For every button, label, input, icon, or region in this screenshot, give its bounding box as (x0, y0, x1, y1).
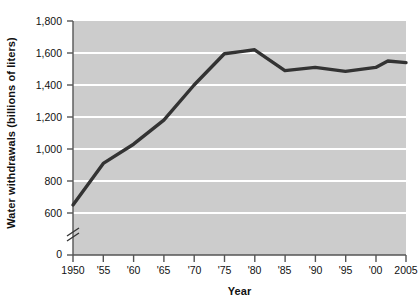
y-axis-ticks (67, 21, 73, 255)
plot-background (73, 21, 406, 255)
x-axis-title: Year (228, 285, 252, 297)
x-tick-label-70: '70 (182, 264, 207, 276)
x-tick-label-00: '00 (363, 264, 388, 276)
x-tick-label-85: '85 (272, 264, 297, 276)
x-tick-label-2005: 2005 (391, 264, 420, 276)
x-tick-label-90: '90 (303, 264, 328, 276)
x-tick-label-65: '65 (151, 264, 176, 276)
x-tick-label-95: '95 (333, 264, 358, 276)
x-tick-label-80: '80 (242, 264, 267, 276)
x-tick-label-75: '75 (212, 264, 237, 276)
x-axis-title-container: Year (73, 281, 406, 299)
x-axis-ticks (73, 255, 406, 262)
x-tick-label-1950: 1950 (58, 264, 88, 276)
x-tick-label-55: '55 (91, 264, 116, 276)
line-chart: Water withdrawals (billions of liters) 1… (0, 0, 420, 307)
plot-canvas (0, 0, 420, 307)
x-tick-label-60: '60 (121, 264, 146, 276)
